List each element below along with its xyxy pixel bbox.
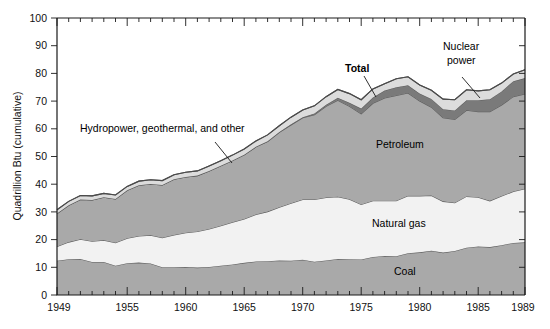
x-tick-label: 1985 (467, 301, 491, 313)
x-tick-label: 1949 (47, 301, 71, 313)
y-axis-title-text: Quadrillion Btu (cumulative) (11, 92, 23, 221)
hydro-label: Hydropower, geothermal, and other (80, 122, 245, 134)
y-tick-label: 20 (35, 233, 47, 245)
coal-label: Coal (394, 265, 416, 277)
x-tick-label: 1970 (291, 301, 315, 313)
y-tick-label: 40 (35, 178, 47, 190)
y-axis-title: Quadrillion Btu (cumulative) (11, 92, 23, 221)
chart-canvas: 0102030405060708090100194919551960196519… (0, 0, 550, 329)
x-tick-label: 1980 (408, 301, 432, 313)
energy-consumption-stacked-area-chart: 0102030405060708090100194919551960196519… (0, 0, 550, 329)
x-tick-label: 1989 (511, 301, 535, 313)
nuclear-label-line1: Nuclear (443, 40, 480, 52)
y-tick-label: 10 (35, 261, 47, 273)
y-tick-label: 60 (35, 122, 47, 134)
x-tick-label: 1960 (174, 301, 198, 313)
y-tick-label: 90 (35, 39, 47, 51)
y-tick-label: 50 (35, 150, 47, 162)
y-tick-label: 30 (35, 206, 47, 218)
nuclear-label-line2: power (447, 54, 476, 66)
y-tick-label: 70 (35, 95, 47, 107)
x-tick-label: 1955 (116, 301, 140, 313)
total-label: Total (345, 62, 369, 74)
petroleum-label: Petroleum (376, 138, 424, 150)
y-tick-label: 100 (29, 12, 47, 24)
y-tick-label: 80 (35, 67, 47, 79)
x-tick-label: 1975 (350, 301, 374, 313)
y-tick-label: 0 (41, 289, 47, 301)
natural-gas-label: Natural gas (372, 217, 426, 229)
x-tick-label: 1965 (233, 301, 257, 313)
